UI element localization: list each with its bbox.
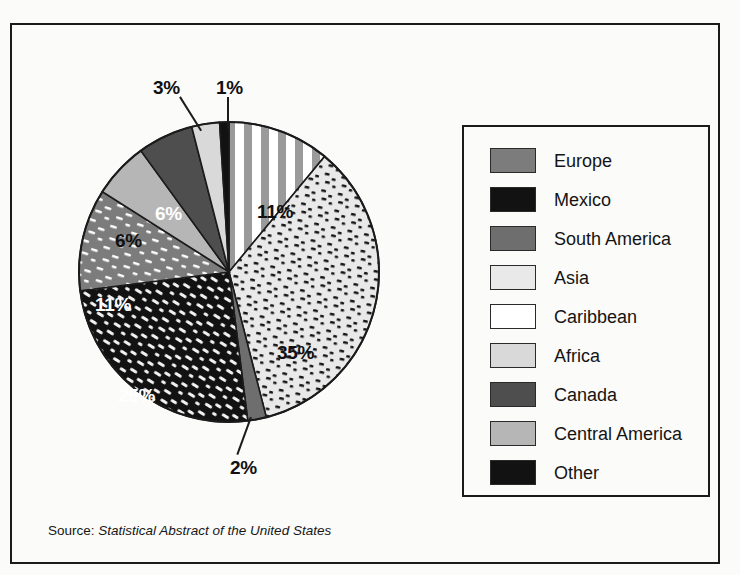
legend-swatch-asia	[490, 265, 536, 290]
slice-label-south-america: 2%	[230, 457, 257, 479]
legend-swatch-mexico	[490, 187, 536, 212]
legend-label-south-america: South America	[554, 230, 671, 248]
slice-label-europe: 11%	[95, 294, 131, 316]
legend-label-caribbean: Caribbean	[554, 308, 637, 326]
legend-swatch-south-america	[490, 226, 536, 251]
slice-label-mexico: 25%	[118, 385, 155, 407]
legend-item-canada[interactable]: Canada	[464, 375, 708, 414]
slice-label-central-america: 6%	[115, 230, 142, 252]
legend-item-central-america[interactable]: Central America	[464, 414, 708, 453]
legend-swatch-canada	[490, 382, 536, 407]
legend-swatch-central-america	[490, 421, 536, 446]
source-note: Source: Statistical Abstract of the Unit…	[48, 523, 331, 538]
chart-frame: 11% 35% 25% 11% 6% 6% 3% 1% 2% Europe Me…	[10, 23, 720, 564]
pie-svg	[74, 117, 384, 427]
pie-chart: 11% 35% 25% 11% 6% 6%	[74, 117, 384, 427]
legend-label-africa: Africa	[554, 347, 600, 365]
legend-item-south-america[interactable]: South America	[464, 219, 708, 258]
legend-swatch-other	[490, 460, 536, 485]
legend-label-central-america: Central America	[554, 425, 682, 443]
legend-item-caribbean[interactable]: Caribbean	[464, 297, 708, 336]
legend-item-europe[interactable]: Europe	[464, 141, 708, 180]
legend-label-asia: Asia	[554, 269, 589, 287]
legend-swatch-europe	[490, 148, 536, 173]
slice-label-caribbean: 11%	[257, 201, 293, 223]
legend-label-mexico: Mexico	[554, 191, 611, 209]
legend: Europe Mexico South America Asia Caribbe…	[462, 125, 710, 497]
slice-label-asia: 35%	[277, 342, 314, 364]
legend-label-canada: Canada	[554, 386, 617, 404]
chart-page: 11% 35% 25% 11% 6% 6% 3% 1% 2% Europe Me…	[0, 0, 740, 575]
legend-swatch-caribbean	[490, 304, 536, 329]
legend-item-africa[interactable]: Africa	[464, 336, 708, 375]
pie-slices	[79, 122, 379, 422]
legend-label-other: Other	[554, 464, 599, 482]
legend-item-mexico[interactable]: Mexico	[464, 180, 708, 219]
legend-item-other[interactable]: Other	[464, 453, 708, 492]
legend-label-europe: Europe	[554, 152, 612, 170]
source-title: Statistical Abstract of the United State…	[98, 523, 331, 538]
legend-swatch-africa	[490, 343, 536, 368]
leader-line-other	[227, 97, 229, 129]
slice-label-other: 1%	[216, 77, 243, 99]
legend-item-asia[interactable]: Asia	[464, 258, 708, 297]
slice-label-canada: 6%	[155, 203, 182, 225]
slice-label-africa: 3%	[153, 77, 180, 99]
source-prefix: Source:	[48, 523, 95, 538]
